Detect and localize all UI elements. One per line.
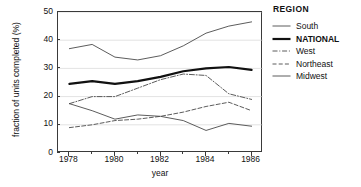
x-axis-tick-label: 1986 xyxy=(231,155,271,164)
legend-swatch-icon xyxy=(272,34,291,44)
y-axis-tick-label: 30 xyxy=(44,63,53,72)
x-axis-tick-mark xyxy=(251,152,252,156)
x-axis-tick-label: 1984 xyxy=(185,155,225,164)
y-axis-tick-mark xyxy=(57,124,60,125)
y-axis-tick-mark xyxy=(57,11,60,12)
x-axis-tick-mark xyxy=(205,152,206,156)
y-axis-tick-mark xyxy=(57,67,60,68)
x-axis-minor-tick-mark xyxy=(137,152,138,154)
x-axis-tick-label: 1978 xyxy=(48,155,88,164)
x-axis-label: year xyxy=(120,169,200,178)
legend-swatch-icon xyxy=(272,71,291,81)
plot-area xyxy=(57,11,262,152)
legend: REGION SouthNATIONALWestNortheastMidwest xyxy=(272,4,360,83)
series-line-south xyxy=(69,22,251,60)
x-axis-tick-label: 1980 xyxy=(94,155,134,164)
legend-item-national[interactable]: NATIONAL xyxy=(272,33,360,46)
y-axis-tick-label: 40 xyxy=(44,35,53,44)
legend-items: SouthNATIONALWestNortheastMidwest xyxy=(272,20,360,83)
x-axis-minor-tick-mark xyxy=(182,152,183,154)
legend-item-label: South xyxy=(296,21,318,31)
legend-swatch-icon xyxy=(272,59,291,69)
y-axis-tick-label: 10 xyxy=(44,119,53,128)
series-line-national xyxy=(69,67,251,84)
legend-title: REGION xyxy=(273,4,360,14)
y-axis-tick-mark xyxy=(57,96,60,97)
legend-item-label: Northeast xyxy=(296,59,333,69)
y-axis-label: fraction of units completed (%) xyxy=(12,10,21,150)
plot-lines xyxy=(58,12,263,153)
x-axis-tick-mark xyxy=(68,152,69,156)
legend-item-northeast[interactable]: Northeast xyxy=(272,58,360,71)
legend-item-south[interactable]: South xyxy=(272,20,360,33)
legend-item-label: West xyxy=(296,46,315,56)
series-line-northeast xyxy=(69,102,251,127)
x-axis-minor-tick-mark xyxy=(228,152,229,154)
x-axis-tick-labels: 19781980198219841986 xyxy=(0,155,361,167)
y-axis-tick-mark xyxy=(57,39,60,40)
legend-item-label: NATIONAL xyxy=(296,34,339,44)
legend-swatch-icon xyxy=(272,21,291,31)
legend-item-midwest[interactable]: Midwest xyxy=(272,70,360,83)
chart-figure: 01020304050 fraction of units completed … xyxy=(0,0,361,187)
y-axis-tick-mark xyxy=(57,152,60,153)
legend-item-west[interactable]: West xyxy=(272,45,360,58)
y-axis-tick-label: 50 xyxy=(44,7,53,16)
series-line-midwest xyxy=(69,104,251,131)
x-axis-tick-mark xyxy=(114,152,115,156)
legend-item-label: Midwest xyxy=(296,71,327,81)
series-line-west xyxy=(69,74,251,104)
y-axis-tick-label: 20 xyxy=(44,91,53,100)
x-axis-tick-mark xyxy=(160,152,161,156)
legend-swatch-icon xyxy=(272,46,291,56)
x-axis-tick-label: 1982 xyxy=(140,155,180,164)
x-axis-minor-tick-mark xyxy=(91,152,92,154)
